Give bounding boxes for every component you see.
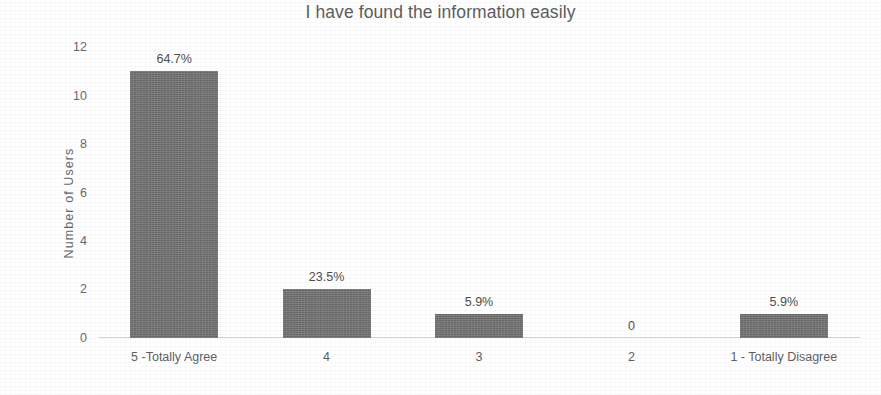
bar-data-label: 23.5%	[309, 270, 344, 284]
bar-texture	[740, 314, 828, 338]
x-axis-category-label: 5 -Totally Agree	[131, 350, 217, 364]
x-axis-category-label: 4	[323, 350, 330, 364]
x-axis-category-label: 1 - Totally Disagree	[730, 350, 837, 364]
bar[interactable]	[130, 71, 218, 338]
x-axis-category-label: 2	[628, 350, 635, 364]
bar[interactable]	[283, 289, 371, 338]
bar-texture	[283, 289, 371, 338]
bar-group: 0 2	[555, 47, 707, 338]
y-tick-label: 0	[80, 331, 87, 345]
y-tick-label: 12	[73, 40, 87, 54]
bar-data-label: 64.7%	[156, 52, 191, 66]
y-tick-label: 6	[80, 186, 87, 200]
bar[interactable]	[740, 314, 828, 338]
y-axis-title: Number of Users	[62, 128, 76, 278]
bar-group: 5.9% 1 - Totally Disagree	[708, 47, 860, 338]
bar-data-label: 5.9%	[770, 295, 799, 309]
y-tick-label: 4	[80, 234, 87, 248]
y-tick-label: 2	[80, 282, 87, 296]
plot-area: 12 10 8 6 4 2 0 64.7% 5 -Totally Agree 2…	[98, 47, 860, 338]
bar-data-label: 0	[628, 319, 635, 333]
bar-texture	[435, 314, 523, 338]
bar-group: 64.7% 5 -Totally Agree	[98, 47, 250, 338]
bar[interactable]	[435, 314, 523, 338]
x-axis-category-label: 3	[476, 350, 483, 364]
bar-group: 23.5% 4	[250, 47, 402, 338]
bar-group: 5.9% 3	[403, 47, 555, 338]
y-tick-label: 10	[73, 89, 87, 103]
chart-title: I have found the information easily	[0, 2, 881, 23]
bar-texture	[130, 71, 218, 338]
y-tick-label: 8	[80, 137, 87, 151]
bar-data-label: 5.9%	[465, 295, 494, 309]
bar-chart: I have found the information easily Numb…	[0, 0, 881, 395]
